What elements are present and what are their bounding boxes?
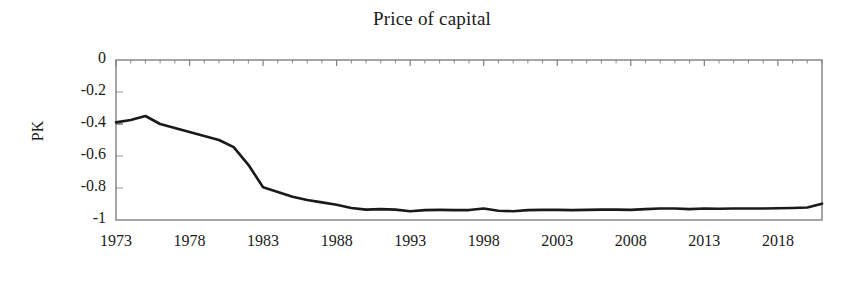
y-tick-label: -0.2: [44, 81, 106, 99]
y-axis-ticks: [116, 92, 123, 188]
y-tick-label: -0.6: [44, 145, 106, 163]
y-tick-label: 0: [44, 49, 106, 67]
x-tick-label: 1993: [375, 232, 445, 250]
series-line-pk: [116, 116, 822, 211]
x-tick-label: 2018: [743, 232, 813, 250]
x-tick-label: 1978: [155, 232, 225, 250]
y-tick-label: -0.4: [44, 113, 106, 131]
x-axis-ticks: [116, 60, 822, 66]
x-tick-label: 1973: [81, 232, 151, 250]
x-tick-label: 1983: [228, 232, 298, 250]
x-tick-label: 1988: [302, 232, 372, 250]
chart-figure: Price of capital PK 0-0.2-0.4-0.6-0.8-1 …: [0, 0, 864, 282]
x-tick-label: 2008: [596, 232, 666, 250]
x-tick-label: 2003: [522, 232, 592, 250]
y-tick-label: -0.8: [44, 177, 106, 195]
y-tick-label: -1: [44, 209, 106, 227]
x-tick-label: 1998: [449, 232, 519, 250]
x-tick-label: 2013: [669, 232, 739, 250]
